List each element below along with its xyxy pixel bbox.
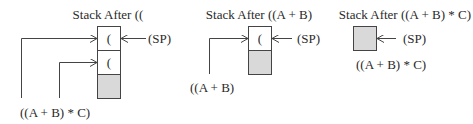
stack-base-shaded	[249, 51, 272, 75]
panel-1-title: Stack After ((	[73, 7, 144, 22]
sp-label: (SP)	[297, 31, 320, 46]
input-label: ((A + B) * C)	[20, 105, 90, 120]
stack-cell-value: (	[107, 55, 111, 70]
input-arrow	[210, 39, 249, 75]
panel-2-title: Stack After ((A + B)	[206, 7, 312, 22]
input-arrow-inner	[60, 63, 98, 99]
panel-3-title: Stack After ((A + B) * C)	[339, 7, 471, 22]
panel-1: Stack After (( ( ( (SP) ((A + B) * C)	[20, 7, 171, 120]
panel-2: Stack After ((A + B) ( (SP) ((A + B)	[190, 7, 320, 95]
panel-3: Stack After ((A + B) * C) (SP) ((A + B) …	[339, 7, 471, 72]
input-label: ((A + B)	[190, 80, 234, 95]
stack-cell-value: (	[258, 31, 262, 46]
stack-cell-value: (	[107, 31, 111, 46]
stack-base-shaded	[354, 27, 377, 51]
stack-base-shaded	[98, 75, 121, 99]
input-label: ((A + B) * C)	[356, 57, 426, 72]
stack-diagram: Stack After (( ( ( (SP) ((A + B) * C) St…	[0, 0, 473, 124]
sp-label: (SP)	[148, 31, 171, 46]
sp-label: (SP)	[403, 31, 426, 46]
